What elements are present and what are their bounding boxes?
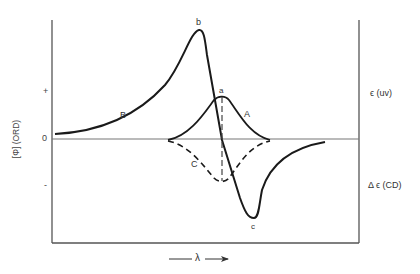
x-axis-label-lambda: λ: [195, 253, 200, 263]
right-label-uv: ϵ (uv): [370, 89, 392, 98]
diagram-canvas: [0, 0, 420, 274]
right-label-cd: Δ ϵ (CD): [368, 181, 402, 190]
label-curve-b: B: [120, 111, 126, 120]
label-curve-c: C: [191, 160, 198, 169]
y-axis-label-ord: [Φ] (ORD): [11, 120, 21, 158]
tick-minus: -: [44, 181, 47, 190]
label-trough-c: c: [251, 223, 255, 231]
cd-curve-c: [168, 141, 270, 181]
tick-zero: 0: [42, 134, 47, 143]
label-center-a: a: [219, 87, 223, 95]
ord-curve-b: [55, 30, 325, 218]
label-peak-b: b: [196, 18, 201, 27]
label-curve-a: A: [244, 110, 250, 119]
tick-plus: +: [43, 87, 48, 96]
